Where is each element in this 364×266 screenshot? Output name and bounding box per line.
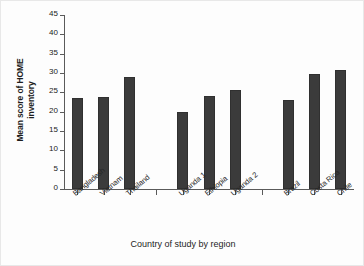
y-tick-mark xyxy=(60,112,65,113)
bar xyxy=(230,90,241,189)
bar xyxy=(309,74,320,189)
bar-chart-figure: Mean score of HOME inventory 05101520253… xyxy=(0,0,364,266)
y-tick-label: 25 xyxy=(36,86,58,95)
plot-area: 051015202530354045 xyxy=(64,15,354,189)
y-tick-label: 15 xyxy=(36,125,58,134)
y-tick-mark xyxy=(60,92,65,93)
y-tick-label: 40 xyxy=(36,28,58,37)
y-tick-mark xyxy=(60,189,65,190)
bar xyxy=(283,100,294,189)
y-axis-line xyxy=(64,15,65,190)
y-axis-title-line-1: Mean score of HOME xyxy=(15,58,25,141)
bar xyxy=(72,98,83,189)
y-tick-mark xyxy=(60,34,65,35)
y-axis-title: Mean score of HOME inventory xyxy=(15,25,37,175)
y-tick-mark xyxy=(60,73,65,74)
y-tick-label: 5 xyxy=(36,164,58,173)
bar xyxy=(124,77,135,189)
bar xyxy=(177,112,188,189)
y-tick-mark xyxy=(60,150,65,151)
y-tick-mark xyxy=(60,15,65,16)
y-axis-title-wrapper: Mean score of HOME inventory xyxy=(3,1,39,201)
y-tick-label: 45 xyxy=(36,9,58,18)
y-tick-mark xyxy=(60,170,65,171)
y-tick-label: 0 xyxy=(36,183,58,192)
y-axis-title-line-2: inventory xyxy=(26,81,36,118)
y-tick-mark xyxy=(60,131,65,132)
x-axis-title: Country of study by region xyxy=(1,239,364,249)
y-tick-label: 35 xyxy=(36,48,58,57)
y-tick-label: 30 xyxy=(36,67,58,76)
x-axis-tick-labels: BangladeshVietnamThailandUganda 1Ethiopi… xyxy=(64,191,356,233)
y-tick-label: 20 xyxy=(36,106,58,115)
y-tick-mark xyxy=(60,54,65,55)
y-tick-label: 10 xyxy=(36,144,58,153)
